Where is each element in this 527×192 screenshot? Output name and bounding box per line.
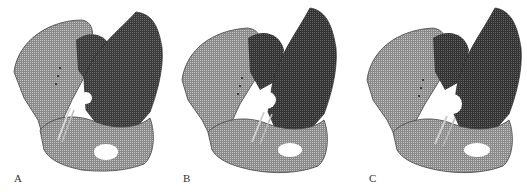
pelvis-mesh-image-c: [349, 0, 527, 192]
panel-label-b: B: [183, 173, 190, 184]
panel-label-a: A: [14, 173, 22, 184]
pelvis-mesh-image-b: [172, 0, 349, 192]
pelvis-mesh-image-a: [0, 0, 172, 192]
panel-c: C: [349, 0, 527, 192]
figure: A B: [0, 0, 527, 192]
panel-a: A: [0, 0, 172, 192]
panel-b: B: [172, 0, 349, 192]
panel-label-c: C: [369, 173, 376, 184]
